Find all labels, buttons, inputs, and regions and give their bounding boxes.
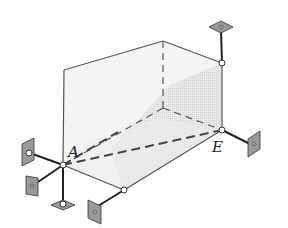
support-e (219, 127, 260, 157)
support-plate-icon (88, 200, 101, 224)
support-plate-icon (248, 131, 260, 157)
box-diagram: A E (0, 0, 288, 228)
support-plate-icon (26, 176, 38, 196)
label-e: E (211, 138, 223, 156)
label-a: A (66, 143, 79, 161)
support-plate-icon (209, 21, 233, 33)
support-bottom-front (88, 187, 127, 224)
